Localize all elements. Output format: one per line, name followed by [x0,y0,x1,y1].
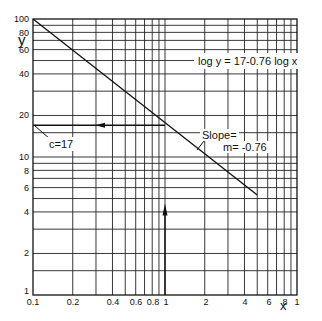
x-tick-label: 1 [163,298,168,307]
equation-label: log y = 17-0.76 log x [194,53,301,69]
x-tick-label: 0.6 [130,298,143,307]
slope-value-label: m= -0.76 [221,141,269,153]
y-tick-label: 1 [5,287,29,296]
x-tick-label: 0.2 [67,298,80,307]
y-axis-label: y [18,31,26,48]
y-tick-label: 2 [5,249,29,258]
y-tick-label: 8 [5,167,29,176]
x-tick-label: 1 [294,298,299,307]
x-tick-label: 2 [203,298,208,307]
x-tick-label: 6 [266,298,271,307]
x-axis-label: x [280,298,287,313]
x-tick-label: 0.8 [147,298,160,307]
y-tick-label: 6 [5,184,29,193]
y-tick-label: 100 [5,15,29,24]
x-tick-label: 4 [242,298,247,307]
slope-leader-line [197,141,204,150]
x-tick-label: 0.1 [27,298,40,307]
y-tick-label: 4 [5,208,29,217]
regression-line [33,19,257,195]
y-tick-label: 20 [5,111,29,120]
up-arrow-icon [163,204,168,216]
y-tick-label: 40 [5,70,29,79]
slope-label: Slope= [200,129,239,141]
x-tick-label: 0.4 [107,298,120,307]
y-tick-label: 10 [5,153,29,162]
intercept-label: c=17 [47,137,75,151]
left-arrow-icon [95,123,105,128]
log-log-chart [0,0,322,321]
